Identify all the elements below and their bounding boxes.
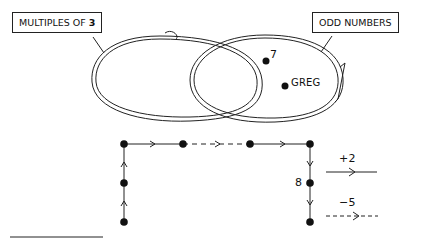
- legend-minus-5-label: −5: [339, 196, 356, 209]
- multiples-of-3-label: MULTIPLES OF 3: [12, 12, 102, 33]
- venn-left-circle: [92, 31, 262, 121]
- legend-plus-2-label: +2: [339, 152, 356, 165]
- point-7-label: 7: [270, 48, 277, 61]
- graph-nodes: [120, 140, 314, 226]
- legend-minus-5-arrow: [326, 212, 378, 220]
- path-graph: [121, 141, 313, 222]
- point-greg-label: GREG: [291, 77, 321, 88]
- left-label-leader: [93, 37, 104, 53]
- odd-numbers-label: ODD NUMBERS: [312, 12, 399, 33]
- left-set-label-text: MULTIPLES OF: [19, 17, 86, 28]
- left-set-number: 3: [89, 17, 96, 28]
- right-set-label-text: ODD NUMBERS: [319, 17, 392, 28]
- venn-right-circle: [190, 35, 345, 122]
- point-greg-dot: [282, 83, 289, 90]
- node-8-label: 8: [295, 176, 302, 189]
- legend-plus-2-arrow: [326, 168, 377, 176]
- point-7-dot: [263, 58, 270, 65]
- diagram-canvas: [0, 0, 426, 242]
